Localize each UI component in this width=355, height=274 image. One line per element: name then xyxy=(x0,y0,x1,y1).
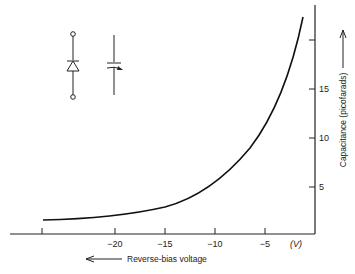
x-axis: −20 −15 −10 −5 (V) Reverse-bias voltage xyxy=(10,228,315,264)
x-axis-label: Reverse-bias voltage xyxy=(127,254,207,264)
left-arrow-icon xyxy=(86,256,122,262)
x-tick-label: −20 xyxy=(107,239,122,249)
x-unit: (V) xyxy=(290,239,302,249)
y-tick-label: 15 xyxy=(319,84,329,94)
capacitance-curve xyxy=(43,17,303,220)
variable-capacitor-icon xyxy=(107,35,123,95)
x-tick-label: −15 xyxy=(157,239,172,249)
y-tick-label: 10 xyxy=(319,133,329,143)
varactor-diode-icon xyxy=(67,32,79,100)
x-tick-label: −10 xyxy=(207,239,222,249)
up-arrow-icon xyxy=(340,30,346,68)
y-axis-label: Capacitance (picofarads) xyxy=(338,73,348,168)
y-tick-label: 5 xyxy=(319,182,324,192)
y-axis: 5 10 15 Capacitance (picofarads) xyxy=(309,5,348,234)
chart: −20 −15 −10 −5 (V) Reverse-bias voltage … xyxy=(0,0,355,274)
x-tick-label: −5 xyxy=(260,239,270,249)
